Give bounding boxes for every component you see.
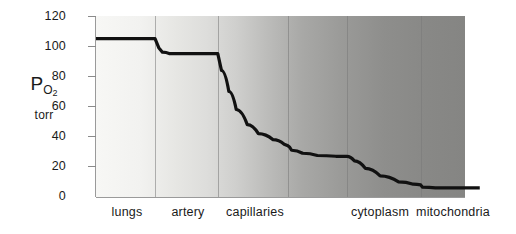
y-tick-label-80: 80 [52, 69, 66, 83]
x-axis-line [96, 197, 465, 198]
y-tick-label-20: 20 [52, 159, 66, 173]
y-tick-label-40: 40 [52, 129, 66, 143]
category-label-artery: artery [171, 205, 204, 219]
category-label-capillaries: capillaries [226, 205, 284, 219]
y-tick-mark-20 [88, 166, 96, 167]
plot-area [96, 16, 465, 197]
y-tick-label-60: 60 [52, 99, 66, 113]
po2-cascade-chart: PO2 torr 120 100 80 60 40 20 0 lungs [0, 0, 516, 234]
y-tick-label-100: 100 [45, 39, 66, 53]
y-tick-mark-40 [88, 136, 96, 137]
category-label-lungs: lungs [112, 205, 143, 219]
y-tick-label-120: 120 [45, 9, 66, 23]
y-tick-mark-80 [88, 76, 96, 77]
category-label-cytoplasm: cytoplasm [351, 205, 409, 219]
po2-curve [96, 16, 481, 197]
category-label-mitochondria: mitochondria [416, 205, 490, 219]
po2-curve-path [96, 39, 480, 188]
category-labels: lungs artery capillaries cytoplasm mitoc… [0, 205, 516, 229]
y-tick-mark-100 [88, 46, 96, 47]
y-tick-mark-120 [88, 16, 96, 17]
y-axis: 120 100 80 60 40 20 0 [0, 0, 100, 234]
y-tick-label-0: 0 [59, 189, 66, 203]
y-tick-mark-60 [88, 106, 96, 107]
